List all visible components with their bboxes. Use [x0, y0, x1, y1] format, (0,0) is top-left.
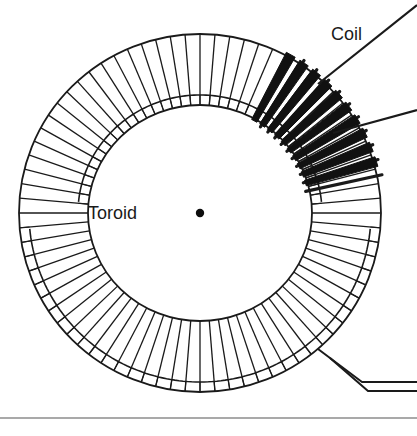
coil-leader-upper [318, 5, 417, 84]
lead-wire-1 [318, 349, 417, 382]
toroid-diagram-canvas: Toroid Coil [0, 0, 417, 436]
label-toroid: Toroid [88, 203, 137, 223]
label-coil: Coil [331, 24, 362, 44]
lead-wire-2 [330, 358, 417, 391]
toroid-diagram-svg: Toroid Coil [0, 0, 417, 436]
lead-wires-group [318, 349, 417, 391]
center-dot [196, 209, 204, 217]
